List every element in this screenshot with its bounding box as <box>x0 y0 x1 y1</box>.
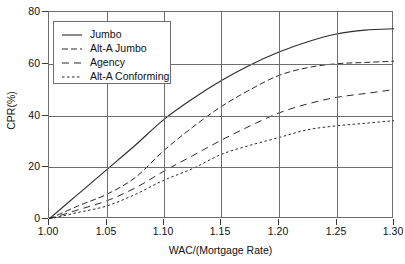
legend-label: Alt-A Jumbo <box>90 43 147 54</box>
y-tick-label: 40 <box>6 110 40 120</box>
legend-line-sample <box>61 72 83 81</box>
legend-line-sample <box>61 44 83 53</box>
x-tick-label: 1.15 <box>198 226 242 237</box>
x-tick-label: 1.25 <box>314 226 358 237</box>
y-tick-label: 20 <box>6 161 40 171</box>
legend-label: Alt-A Conforming <box>90 71 169 82</box>
legend-item: Jumbo <box>61 27 170 41</box>
gridline-vertical <box>221 12 222 217</box>
legend-item: Agency <box>61 55 170 69</box>
gridline-vertical <box>337 12 338 217</box>
chart-figure: CPR(%) 020406080 1.001.051.101.151.201.2… <box>0 0 405 264</box>
chart-legend: JumboAlt-A JumboAgencyAlt-A Conforming <box>53 21 171 84</box>
legend-line-sample <box>61 30 83 39</box>
x-tick-label: 1.05 <box>84 226 128 237</box>
x-tick-label: 1.20 <box>256 226 300 237</box>
x-axis-title: WAC/(Mortgage Rate) <box>48 245 393 256</box>
gridline-horizontal <box>49 116 392 117</box>
legend-item: Alt-A Conforming <box>61 69 170 83</box>
y-tick-label: 60 <box>6 58 40 68</box>
y-tick-label: 80 <box>6 6 40 16</box>
x-tick-label: 1.00 <box>26 226 70 237</box>
legend-item: Alt-A Jumbo <box>61 41 170 55</box>
y-axis-ticks: 020406080 <box>0 0 40 264</box>
gridline-horizontal <box>49 167 392 168</box>
y-tick-label: 0 <box>6 213 40 223</box>
x-tick-label: 1.30 <box>371 226 405 237</box>
x-tick-label: 1.10 <box>141 226 185 237</box>
gridline-vertical <box>279 12 280 217</box>
legend-label: Agency <box>90 57 125 68</box>
legend-line-sample <box>61 58 83 67</box>
legend-label: Jumbo <box>90 29 122 40</box>
